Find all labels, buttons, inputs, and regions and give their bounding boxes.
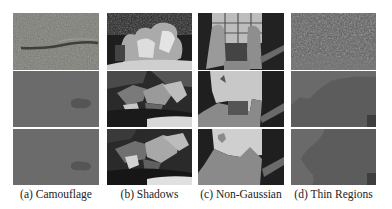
- caption-thin-regions: (d) Thin Regions: [291, 188, 376, 200]
- shadows-segmentation-1: [107, 71, 192, 127]
- shadows-segmentation-2: [107, 129, 192, 185]
- non-gaussian-segmentation-2: [198, 129, 284, 185]
- non-gaussian-input-image: [198, 13, 284, 70]
- non-gaussian-segmentation-1: [198, 71, 284, 127]
- thin-regions-segmentation-2: [291, 129, 376, 185]
- camouflage-segmentation-1: [13, 71, 99, 127]
- shadows-input-image: [107, 13, 192, 70]
- caption-camouflage: (a) Camouflage: [13, 188, 99, 200]
- caption-non-gaussian: (c) Non-Gaussian: [198, 188, 284, 200]
- camouflage-input-image: [13, 13, 99, 70]
- caption-shadows: (b) Shadows: [107, 188, 192, 200]
- thin-regions-input-image: [291, 13, 376, 70]
- thin-regions-segmentation-1: [291, 71, 376, 127]
- camouflage-segmentation-2: [13, 129, 99, 185]
